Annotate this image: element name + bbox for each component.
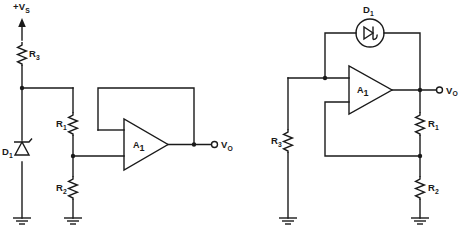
resistor-r2-right: R2 [416, 176, 439, 200]
led-d1-right: D1 [356, 4, 384, 47]
led-triangle-icon [364, 27, 373, 39]
resistor-r3-label-right: R3 [271, 135, 282, 148]
output-terminal-icon [212, 142, 218, 148]
left-circuit: +VS R3 D1 R1 [2, 1, 233, 224]
opamp-triangle-icon [349, 66, 392, 114]
led-d1-label: D1 [363, 4, 374, 17]
resistor-r3-label: R3 [29, 48, 40, 61]
ground-right-2 [411, 218, 429, 224]
supply-arrow-icon [18, 18, 26, 27]
resistor-zigzag-icon [69, 176, 78, 200]
diode-d1-label: D1 [2, 146, 13, 159]
zener-diode-d1-left: D1 [2, 139, 32, 159]
resistor-zigzag-icon [416, 112, 425, 136]
resistor-zigzag-icon [284, 129, 293, 153]
resistor-r1-label-right: R1 [428, 118, 439, 131]
ground-right-1 [279, 218, 297, 224]
resistor-zigzag-icon [416, 176, 425, 200]
opamp-triangle-icon [124, 119, 168, 170]
junction-node-output [192, 142, 196, 146]
resistor-r2-left: R2 [56, 176, 77, 200]
ground-left-1 [13, 218, 31, 224]
opamp-a1-left: A1 [124, 119, 168, 170]
supply-rail-left: +VS [13, 1, 30, 40]
zener-bar-icon [14, 139, 32, 143]
resistor-r1-left: R1 [56, 112, 77, 136]
opamp-a1-right: A1 [349, 66, 392, 114]
wire-d1-right-leg [384, 33, 420, 89]
right-circuit: D1 A1 VO R3 [271, 4, 458, 224]
resistor-r3-left: R3 [18, 42, 40, 66]
feedback-loop-wire [98, 88, 194, 145]
resistor-r2-label: R2 [56, 182, 67, 195]
resistor-zigzag-icon [18, 42, 27, 66]
resistor-r1-label: R1 [56, 118, 67, 131]
opamp-a1-label: A1 [133, 140, 145, 153]
wire-feedback-divider-to-noninverting [325, 102, 420, 156]
diode-triangle-icon [15, 142, 29, 155]
output-terminal-icon [437, 87, 443, 93]
output-label-right: VO [446, 85, 458, 98]
junction-node-inverting [323, 76, 327, 80]
ground-left-2 [64, 218, 82, 224]
led-circle-icon [356, 19, 384, 47]
circuit-schematic-canvas: +VS R3 D1 R1 [0, 0, 465, 243]
opamp-a1-label: A1 [357, 85, 369, 98]
output-label-left: VO [221, 139, 233, 152]
resistor-r2-label-right: R2 [428, 182, 439, 195]
resistor-zigzag-icon [69, 112, 78, 136]
schematic-figure: +VS R3 D1 R1 [0, 0, 465, 243]
resistor-r1-right: R1 [416, 112, 439, 136]
resistor-r3-right: R3 [271, 129, 292, 153]
supply-label: +VS [13, 1, 30, 14]
wire-d1-left-leg [325, 33, 356, 78]
